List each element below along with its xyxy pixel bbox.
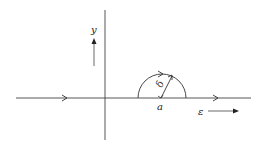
- point-label: a: [157, 101, 163, 112]
- y-arrowhead-icon: [92, 38, 97, 44]
- epsilon-arrowhead-icon: [233, 109, 239, 114]
- y-axis-label: y: [90, 24, 97, 35]
- epsilon-label: ε: [198, 106, 203, 117]
- radius-label: δ: [154, 79, 166, 88]
- contour-diagram: δ a y ε: [0, 0, 263, 147]
